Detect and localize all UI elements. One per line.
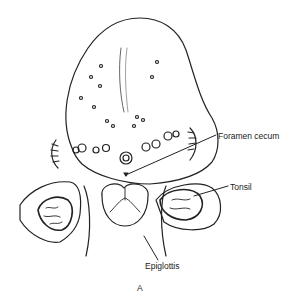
left-tonsil bbox=[38, 197, 72, 230]
tongue-illustration bbox=[0, 0, 303, 303]
panel-letter: A bbox=[137, 284, 143, 293]
label-foramen-cecum: Foramen cecum bbox=[218, 132, 279, 141]
label-epiglottis: Epiglottis bbox=[145, 262, 180, 271]
tongue-outline bbox=[66, 18, 218, 184]
figure-canvas: Foramen cecum Tonsil Epiglottis A bbox=[0, 0, 303, 303]
label-tonsil: Tonsil bbox=[230, 183, 252, 192]
right-tonsil bbox=[160, 190, 202, 220]
epiglottis-leader bbox=[144, 236, 158, 260]
foramen-cecum-leader bbox=[128, 135, 216, 174]
